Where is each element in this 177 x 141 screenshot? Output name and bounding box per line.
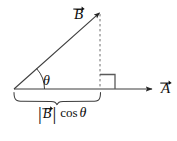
vector-b-label: B (74, 6, 83, 22)
figure-canvas (0, 0, 177, 141)
projection-vector-symbol: B (43, 106, 52, 121)
vector-b-letter: B (74, 6, 83, 22)
vector-b-line (14, 13, 100, 89)
vector-a-letter: A (161, 80, 170, 96)
magnitude-bar-left: | (38, 105, 42, 123)
vector-b-symbol: B (74, 6, 83, 22)
vector-a-symbol: A (161, 80, 170, 96)
right-angle-mark (100, 75, 115, 90)
cosine-function-text: cos (60, 106, 77, 119)
projection-angle-symbol: θ (80, 106, 87, 120)
projection-brace (14, 93, 101, 105)
vector-projection-figure: B A θ | B | cos (0, 0, 177, 141)
vector-a-label: A (161, 80, 170, 96)
magnitude-bar-right: | (52, 105, 56, 123)
projection-vector-letter: B (43, 106, 52, 121)
projection-length-label: | B | cos θ (37, 106, 86, 124)
angle-theta-label: θ (43, 74, 50, 88)
